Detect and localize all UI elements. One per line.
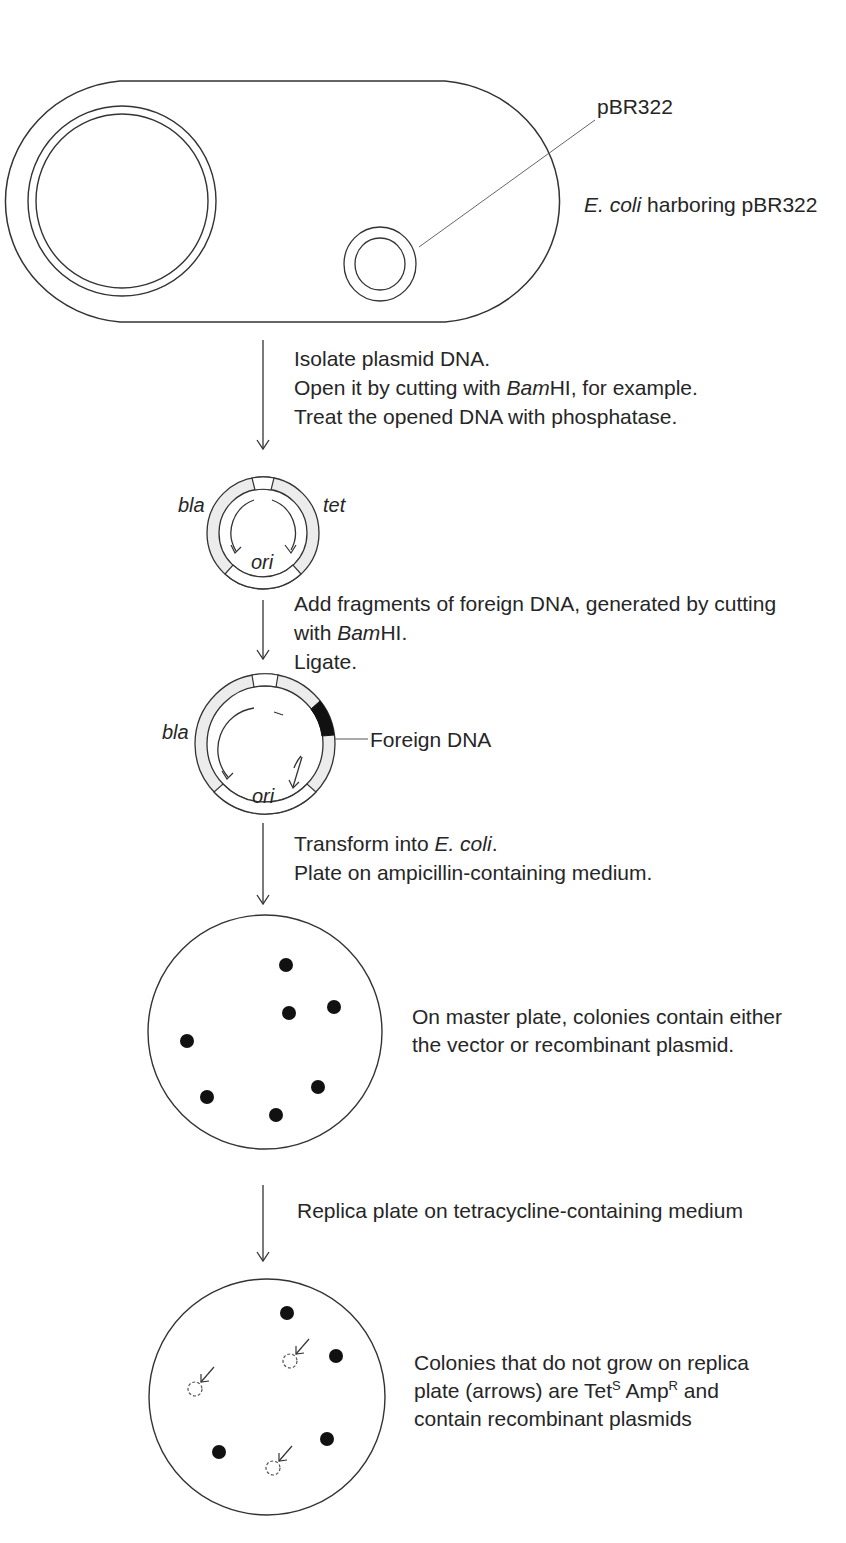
colony [212, 1445, 226, 1459]
step1-line2: Open it by cutting with BamHI, for examp… [294, 373, 698, 402]
plasmid-in-cell-inner [355, 238, 405, 290]
foreign-dna-label: Foreign DNA [370, 725, 491, 754]
step1-line3: Treat the opened DNA with phosphatase. [294, 402, 698, 431]
step3-line1-italic: E. coli [434, 832, 491, 855]
plasmid-recombinant-diagram [195, 674, 368, 814]
caption-tet: plate (arrows) are Tet [414, 1379, 612, 1402]
superscript-s: S [612, 1378, 621, 1393]
replica-plate-colonies [212, 1306, 343, 1459]
bla-label: bla [178, 494, 205, 517]
colony [320, 1432, 334, 1446]
cell-caption-italic: E. coli [584, 193, 641, 216]
ecoli-cell-outline [5, 81, 559, 322]
replica-plate-missing-colonies [188, 1339, 309, 1475]
colony [311, 1080, 325, 1094]
pbr322-label: pBR322 [597, 92, 673, 121]
missing-colony [266, 1461, 280, 1475]
ori-label: ori [251, 551, 273, 574]
step3-line1-pre: Transform into [294, 832, 434, 855]
bla-label-recombinant: bla [162, 721, 189, 744]
step4-text: Replica plate on tetracycline-containing… [297, 1196, 743, 1225]
master-plate [148, 915, 382, 1149]
pointer-arrow-icon [296, 1339, 309, 1354]
step1-line2-pre: Open it by cutting with [294, 376, 506, 399]
missing-colony [188, 1382, 202, 1396]
colony [280, 1306, 294, 1320]
replica-plate [149, 1279, 385, 1515]
step3-line2: Plate on ampicillin-containing medium. [294, 858, 652, 887]
caption-and: and [678, 1379, 719, 1402]
master-caption-line1: On master plate, colonies contain either [412, 1003, 782, 1031]
step1-line2-italic: Bam [506, 376, 549, 399]
step1-text: Isolate plasmid DNA. Open it by cutting … [294, 344, 698, 431]
step3-line1-post: . [492, 832, 498, 855]
step1-line2-post: HI, for example. [550, 376, 698, 399]
cell-caption: E. coli harboring pBR322 [584, 190, 817, 219]
master-plate-colonies [180, 958, 341, 1122]
step3-text: Transform into E. coli. Plate on ampicil… [294, 829, 652, 887]
colony [282, 1006, 296, 1020]
arrow-down-icon [257, 340, 269, 449]
pointer-arrow-icon [279, 1446, 292, 1461]
caption-amp: Amp [621, 1379, 669, 1402]
master-caption-line2: the vector or recombinant plasmid. [412, 1031, 782, 1059]
step2-line2-pre: with [294, 621, 337, 644]
nucleoid-outer [28, 106, 216, 296]
colony [329, 1349, 343, 1363]
plasmid-pointer-line [419, 120, 595, 247]
colony [200, 1090, 214, 1104]
missing-colony [283, 1354, 297, 1368]
step3-line1: Transform into E. coli. [294, 829, 652, 858]
step2-line1: Add fragments of foreign DNA, generated … [294, 589, 776, 618]
replica-caption-line3: contain recombinant plasmids [414, 1405, 749, 1433]
replica-caption-line1: Colonies that do not grow on replica [414, 1349, 749, 1377]
step2-line3: Ligate. [294, 647, 776, 676]
diagram-canvas [0, 0, 846, 1543]
step2-line2: with BamHI. [294, 618, 776, 647]
colony [327, 1000, 341, 1014]
master-plate-caption: On master plate, colonies contain either… [412, 1003, 782, 1059]
replica-caption-line2: plate (arrows) are TetS AmpR and [414, 1377, 749, 1405]
colony [180, 1034, 194, 1048]
nucleoid-inner [36, 114, 208, 288]
arrow-down-icon [257, 1185, 269, 1261]
colony [279, 958, 293, 972]
step1-line1: Isolate plasmid DNA. [294, 344, 698, 373]
step2-text: Add fragments of foreign DNA, generated … [294, 589, 776, 676]
superscript-r: R [669, 1378, 678, 1393]
arrow-down-icon [257, 823, 269, 904]
arrow-down-icon [257, 600, 269, 659]
tet-label: tet [323, 494, 345, 517]
replica-plate-caption: Colonies that do not grow on replica pla… [414, 1349, 749, 1433]
pointer-arrow-icon [201, 1367, 214, 1382]
step2-line2-post: HI. [380, 621, 407, 644]
cell-caption-rest: harboring pBR322 [641, 193, 817, 216]
step2-line2-italic: Bam [337, 621, 380, 644]
ori-label-recombinant: ori [252, 785, 274, 808]
colony [269, 1108, 283, 1122]
